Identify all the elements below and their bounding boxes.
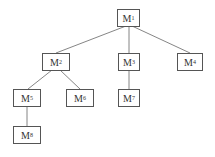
edge-m2-m5 [28,70,52,89]
node-m5-sub: 5 [30,95,33,101]
edge-m1-m2 [56,26,126,53]
node-m3-sub: 3 [132,59,135,65]
edge-m2-m6 [60,70,80,89]
node-m5-label: M [21,93,30,104]
node-m2-label: M [50,57,59,68]
node-m1-label: M [123,13,132,24]
node-m4: M4 [177,53,203,71]
node-m8: M8 [13,126,41,144]
node-m7-label: M [123,93,132,104]
node-m7-sub: 7 [132,95,135,101]
node-m4-sub: 4 [193,59,196,65]
node-m6: M6 [66,89,94,107]
node-m1: M1 [117,9,140,27]
node-m6-sub: 6 [83,95,86,101]
node-m8-label: M [21,130,30,141]
node-m1-sub: 1 [131,15,134,21]
node-m3: M3 [118,53,140,71]
node-m3-label: M [123,57,132,68]
edge-m1-m4 [132,26,190,53]
node-m2: M2 [42,53,70,71]
node-m4-label: M [184,57,193,68]
node-m2-sub: 2 [59,59,62,65]
node-m8-sub: 8 [30,132,33,138]
node-m5: M5 [13,89,41,107]
node-m7: M7 [118,89,140,107]
node-m6-label: M [74,93,83,104]
